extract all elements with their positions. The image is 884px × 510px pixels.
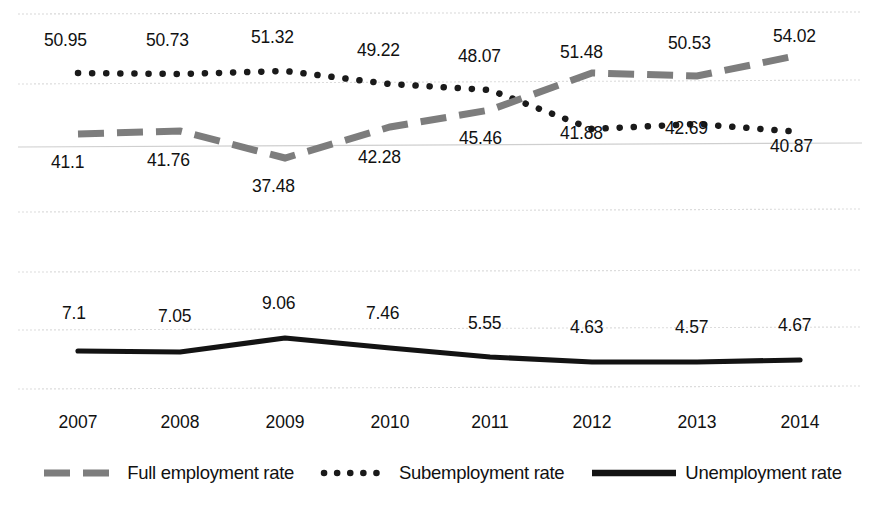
solid-line-marker-icon <box>590 466 678 480</box>
legend-item-full-employment[interactable]: Full employment rate <box>42 462 294 484</box>
data-label-full-employment-2012: 51.48 <box>560 42 603 63</box>
series-line-full-employment <box>78 55 800 158</box>
dashed-line-marker-icon <box>42 466 120 480</box>
data-label-full-employment-2010: 42.28 <box>358 147 401 168</box>
data-label-subemployment-2013: 42.69 <box>665 118 708 139</box>
data-label-subemployment-2008: 50.73 <box>146 30 189 51</box>
legend-label-unemployment: Unemployment rate <box>685 462 841 484</box>
data-label-subemployment-2012: 41.88 <box>560 123 603 144</box>
employment-rates-chart: 50.95 50.73 51.32 49.22 48.07 41.88 42.6… <box>0 0 884 510</box>
data-label-full-employment-2008: 41.76 <box>147 150 190 171</box>
data-label-subemployment-2009: 51.32 <box>251 27 294 48</box>
legend-item-subemployment[interactable]: Subemployment rate <box>320 462 564 484</box>
chart-plot-area <box>0 0 884 510</box>
dotted-line-marker-icon <box>320 466 392 480</box>
data-label-unemployment-2010: 7.46 <box>366 303 399 324</box>
data-label-unemployment-2007: 7.1 <box>62 303 86 324</box>
legend-item-unemployment[interactable]: Unemployment rate <box>590 462 841 484</box>
x-axis-tick-2008: 2008 <box>161 412 200 433</box>
data-label-full-employment-2014: 54.02 <box>773 26 816 47</box>
data-label-subemployment-2010: 49.22 <box>357 40 400 61</box>
x-axis-tick-2012: 2012 <box>573 412 612 433</box>
x-axis-tick-2010: 2010 <box>371 412 410 433</box>
series-line-unemployment <box>78 338 800 362</box>
x-axis-tick-2011: 2011 <box>471 412 509 433</box>
data-label-unemployment-2011: 5.55 <box>468 313 501 334</box>
chart-legend: Full employment rate Subemployment rate … <box>0 456 884 490</box>
data-label-unemployment-2013: 4.57 <box>675 317 708 338</box>
x-axis-tick-2013: 2013 <box>678 412 717 433</box>
legend-label-subemployment: Subemployment rate <box>399 462 564 484</box>
data-label-full-employment-2011: 45.46 <box>459 128 502 149</box>
data-label-unemployment-2008: 7.05 <box>158 306 191 327</box>
data-label-unemployment-2012: 4.63 <box>570 317 603 338</box>
data-label-subemployment-2007: 50.95 <box>44 30 87 51</box>
x-axis-tick-2014: 2014 <box>781 412 820 433</box>
data-label-full-employment-2007: 41.1 <box>51 152 84 173</box>
x-axis-tick-2009: 2009 <box>266 412 305 433</box>
data-label-full-employment-2009: 37.48 <box>252 176 295 197</box>
data-label-unemployment-2014: 4.67 <box>778 315 811 336</box>
data-label-subemployment-2014: 40.87 <box>770 136 813 157</box>
data-label-full-employment-2013: 50.53 <box>668 33 711 54</box>
legend-label-full-employment: Full employment rate <box>127 462 294 484</box>
data-label-subemployment-2011: 48.07 <box>458 46 501 67</box>
data-label-unemployment-2009: 9.06 <box>262 293 295 314</box>
x-axis-tick-2007: 2007 <box>59 412 98 433</box>
